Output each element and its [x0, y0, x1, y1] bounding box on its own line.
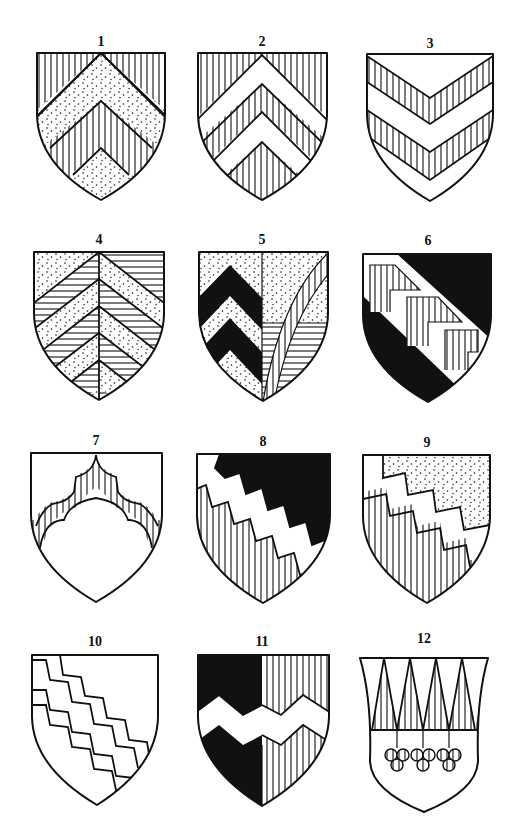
shield-number-label: 4: [96, 232, 103, 247]
shield-number-label: 8: [260, 434, 267, 449]
shield-number-label: 6: [425, 233, 432, 248]
shield-number-label: 5: [259, 232, 266, 247]
shield-number-label: 2: [259, 34, 266, 49]
shield-2: 2: [184, 34, 340, 218]
shield-12: 12: [355, 631, 495, 815]
shield-number-label: 9: [424, 435, 431, 450]
shield-7: 7: [22, 433, 170, 610]
shield-number-label: 11: [255, 634, 268, 649]
shield-6: 6: [355, 233, 500, 410]
shield-number-label: 12: [417, 631, 431, 646]
shield-number-label: 3: [427, 36, 434, 51]
shield-5: 5: [195, 232, 335, 408]
shield-8: 8: [190, 434, 340, 610]
shield-4: 4: [28, 232, 169, 440]
shield-number-label: 7: [93, 433, 100, 448]
shield-number-label: 1: [98, 34, 105, 49]
shield-number-label: 10: [88, 634, 102, 649]
shield-3: 3: [360, 36, 500, 210]
shield-9: 9: [355, 435, 500, 610]
shield-11: 11: [190, 634, 334, 810]
shield-1: 1: [22, 34, 180, 205]
heraldry-plate: 1 2 3: [0, 0, 518, 833]
shield-10: 10: [25, 634, 165, 810]
